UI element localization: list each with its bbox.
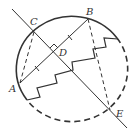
diagram-svg: C B D A E [0, 0, 136, 134]
chord-ab [20, 19, 88, 83]
label-b: B [85, 6, 93, 17]
circle-dashed-arc [27, 38, 128, 122]
label-d: D [58, 47, 67, 58]
label-a: A [8, 83, 16, 94]
label-e: E [115, 108, 124, 119]
segment-be [88, 19, 110, 110]
geometry-diagram: C B D A E [0, 0, 136, 134]
label-c: C [30, 16, 38, 27]
segment-ca [20, 32, 34, 83]
right-angle-mark [50, 44, 58, 48]
zigzag-curve [27, 38, 118, 100]
